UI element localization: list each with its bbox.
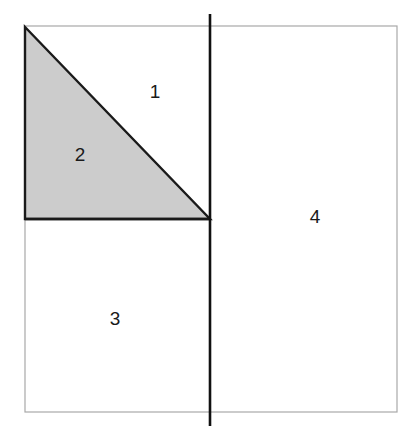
region-2-label: 2: [75, 144, 86, 165]
region-1-label: 1: [150, 81, 161, 102]
figure-canvas: 1234: [0, 0, 414, 432]
region-4-label: 4: [310, 206, 321, 227]
geometry-figure: 1234: [0, 0, 414, 432]
region-3-label: 3: [110, 308, 121, 329]
